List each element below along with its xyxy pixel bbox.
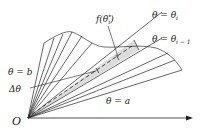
f-theta-star-label: f(θ*i)	[95, 13, 114, 25]
axis-arrowhead-icon	[186, 116, 193, 121]
theta-b-label: θ = b	[8, 67, 33, 77]
delta-theta-label: Δθ	[8, 84, 21, 94]
origin-label: O	[12, 115, 21, 128]
theta-a-label: θ = a	[106, 96, 130, 106]
theta-i-minus-1-label: θ = θi − 1	[152, 34, 191, 45]
theta-i-label: θ = θi	[152, 10, 178, 21]
polar-area-diagram: O θ = θi θ = θi − 1 f(θ*i) θ = b Δθ θ = …	[0, 0, 200, 137]
f-label-leader	[108, 26, 118, 57]
